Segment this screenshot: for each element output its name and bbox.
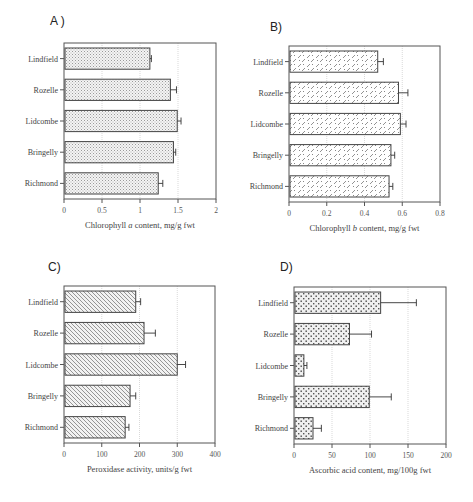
x-tick-label: 0.5	[97, 206, 107, 215]
x-axis-label: Chlorophyll a content, mg/g fwt	[85, 220, 195, 230]
category-label: Bringelly	[28, 148, 58, 157]
bar-lindfield	[295, 292, 416, 313]
bar-rozelle	[65, 79, 176, 100]
bar-lindfield	[290, 51, 383, 72]
category-label: Lidcombe	[26, 361, 59, 370]
bar-lindfield	[65, 291, 141, 312]
bar-bringelly	[65, 142, 176, 163]
category-label: Bringelly	[258, 393, 288, 402]
bar-rozelle	[65, 322, 155, 343]
x-axis-label: Ascorbic acid content, mg/100g fwt	[309, 465, 432, 475]
chart-d: LindfieldRozelleLidcombeBringellyRichmon…	[255, 287, 452, 475]
bar-bringelly	[295, 386, 391, 407]
chart-a: LindfieldRozelleLidcombeBringellyRichmon…	[25, 43, 218, 230]
bar-richmond	[65, 417, 129, 438]
x-axis-label: Chlorophyll b content, mg/g fwt	[310, 223, 420, 233]
category-label: Rozelle	[264, 330, 289, 339]
x-tick-label: 0	[292, 451, 296, 460]
bar-richmond	[65, 173, 163, 194]
x-tick-label: 1.5	[173, 206, 183, 215]
category-label: Lindfield	[28, 55, 58, 64]
bar-richmond	[295, 418, 321, 439]
category-label: Richmond	[25, 423, 58, 432]
x-tick-label: 2	[214, 206, 218, 215]
bar-lidcombe	[65, 354, 186, 375]
x-tick-label: 100	[96, 450, 108, 459]
charts-canvas: LindfieldRozelleLidcombeBringellyRichmon…	[0, 0, 473, 502]
bar-lindfield	[65, 48, 151, 69]
category-label: Richmond	[250, 182, 283, 191]
x-tick-label: 0.2	[322, 209, 332, 218]
bar-richmond	[290, 176, 393, 197]
bar-bringelly	[65, 385, 136, 406]
category-label: Lindfield	[258, 299, 288, 308]
x-tick-label: 150	[402, 451, 414, 460]
category-label: Rozelle	[259, 89, 284, 98]
x-tick-label: 100	[364, 451, 376, 460]
x-tick-label: 0.4	[360, 209, 370, 218]
chart-b: LindfieldRozelleLidcombeBringellyRichmon…	[250, 46, 445, 233]
x-tick-label: 0	[287, 209, 291, 218]
category-label: Richmond	[255, 424, 288, 433]
category-label: Richmond	[25, 179, 58, 188]
x-tick-label: 0	[62, 450, 66, 459]
x-tick-label: 50	[328, 451, 336, 460]
category-label: Bringelly	[28, 392, 58, 401]
category-label: Lidcombe	[256, 362, 289, 371]
category-label: Bringelly	[253, 151, 283, 160]
x-tick-label: 0.6	[398, 209, 408, 218]
charts-root: LindfieldRozelleLidcombeBringellyRichmon…	[25, 43, 452, 475]
bar-lidcombe	[65, 110, 181, 131]
bar-lidcombe	[295, 355, 307, 376]
bar-rozelle	[290, 82, 408, 103]
x-tick-label: 1	[138, 206, 142, 215]
x-tick-label: 0.8	[435, 209, 445, 218]
bar-lidcombe	[290, 113, 406, 134]
category-label: Lidcombe	[251, 120, 284, 129]
category-label: Rozelle	[34, 329, 59, 338]
x-tick-label: 0	[62, 206, 66, 215]
category-label: Lindfield	[28, 298, 58, 307]
category-label: Rozelle	[34, 86, 59, 95]
x-tick-label: 300	[172, 450, 184, 459]
x-axis-label: Peroxidase activity, units/g fwt	[87, 464, 193, 474]
bar-rozelle	[295, 323, 372, 344]
x-tick-label: 400	[209, 450, 221, 459]
x-tick-label: 200	[134, 450, 146, 459]
chart-c: LindfieldRozelleLidcombeBringellyRichmon…	[25, 286, 221, 474]
category-label: Lindfield	[253, 58, 283, 67]
category-label: Lidcombe	[26, 117, 59, 126]
x-tick-label: 200	[440, 451, 452, 460]
bar-bringelly	[290, 145, 395, 166]
